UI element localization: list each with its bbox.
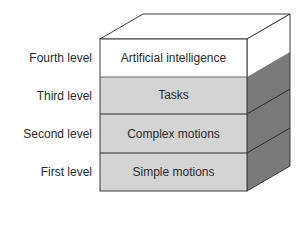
level-label-3: Third level xyxy=(0,89,92,103)
level-content-2: Complex motions xyxy=(100,127,247,141)
level-label-4: Fourth level xyxy=(0,51,92,65)
level-content-3: Tasks xyxy=(100,88,247,102)
level-label-1: First level xyxy=(0,165,92,179)
level-label-2: Second level xyxy=(0,127,92,141)
level-content-1: Simple motions xyxy=(100,165,247,179)
level-content-4: Artificial intelligence xyxy=(100,51,247,65)
